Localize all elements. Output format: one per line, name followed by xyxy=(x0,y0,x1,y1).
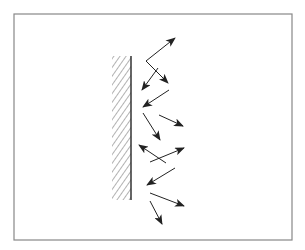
molecule-arrow-icon xyxy=(150,193,184,206)
molecule-arrow-icon xyxy=(146,38,175,61)
hatched-wall xyxy=(112,56,131,200)
molecule-arrow-icon xyxy=(143,113,160,140)
molecule-arrow-icon xyxy=(159,115,183,126)
molecule-arrow-icon xyxy=(150,201,162,224)
molecule-arrows xyxy=(139,38,184,224)
diagram-canvas xyxy=(0,0,305,250)
molecule-arrow-icon xyxy=(150,148,184,162)
molecule-arrow-icon xyxy=(142,68,158,90)
molecule-arrow-icon xyxy=(147,168,175,185)
wall-hatching xyxy=(112,56,131,200)
molecule-arrow-icon xyxy=(143,90,169,107)
diagram-figure xyxy=(0,0,305,250)
molecule-arrow-icon xyxy=(139,145,166,163)
